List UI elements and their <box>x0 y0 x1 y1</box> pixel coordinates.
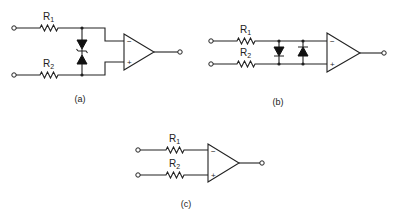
noninverting-input-sign: + <box>127 58 132 67</box>
input-terminal-2 <box>209 62 213 66</box>
wire-r2 <box>213 61 327 67</box>
caption-c: (c) <box>181 199 192 209</box>
output-terminal <box>382 51 386 55</box>
inverting-input-sign: − <box>127 37 132 46</box>
diode-down-icon <box>274 39 284 65</box>
wire-r1 <box>16 25 124 41</box>
wire-r2 <box>16 62 124 78</box>
panel-c: R1 R2 − + (c) <box>136 133 264 209</box>
inverting-input-sign: − <box>211 147 216 156</box>
wire-r1 <box>213 38 327 44</box>
input-terminal-1 <box>136 148 140 152</box>
noninverting-input-sign: + <box>211 171 216 180</box>
circuit-figure: R1 R2 − + (a) R1 R2 <box>0 0 396 220</box>
output-terminal <box>260 161 264 165</box>
output-terminal <box>178 50 182 54</box>
caption-a: (a) <box>75 94 86 104</box>
r1-label: R1 <box>169 133 180 145</box>
r2-label: R2 <box>169 158 180 170</box>
input-terminal-1 <box>209 39 213 43</box>
diode-up-icon <box>298 39 308 65</box>
input-terminal-1 <box>12 26 16 30</box>
panel-b: R1 R2 − + (b) <box>209 24 386 107</box>
caption-b: (b) <box>273 97 284 107</box>
r1-label: R1 <box>240 24 251 36</box>
input-terminal-2 <box>12 73 16 77</box>
wire-r2 <box>140 172 208 178</box>
zener-diode-pair-icon <box>77 28 88 75</box>
wire-r1 <box>140 147 208 153</box>
r2-label: R2 <box>240 47 251 59</box>
r1-label: R1 <box>43 11 54 23</box>
input-terminal-2 <box>136 173 140 177</box>
noninverting-input-sign: + <box>330 60 335 69</box>
panel-a: R1 R2 − + (a) <box>12 11 182 104</box>
r2-label: R2 <box>43 58 54 70</box>
inverting-input-sign: − <box>330 37 335 46</box>
